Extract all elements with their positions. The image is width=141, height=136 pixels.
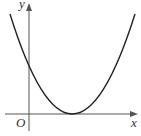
y-axis-label: y xyxy=(17,0,25,11)
parabola-diagram: y O x xyxy=(0,0,141,136)
origin-label: O xyxy=(16,115,26,130)
graph-canvas: y O x xyxy=(0,0,141,136)
x-axis-label: x xyxy=(130,115,137,130)
y-axis-arrow-icon xyxy=(26,3,32,11)
